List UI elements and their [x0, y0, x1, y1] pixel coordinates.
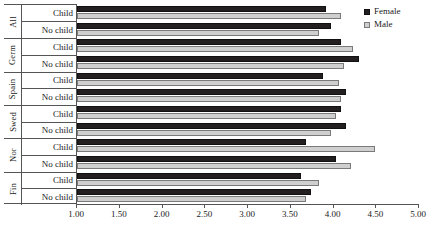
group-subrows: Child No child	[22, 5, 76, 38]
bar-female	[77, 156, 336, 162]
group-subrows: Child No child	[22, 106, 76, 138]
bar-row	[77, 121, 418, 138]
bar-row	[77, 37, 418, 54]
bar-row	[77, 104, 418, 121]
group-label-all: All	[4, 5, 22, 38]
bar-female	[77, 139, 306, 145]
group-row-swed: Swed Child No child	[4, 105, 76, 138]
group-row-spain: Spain Child No child	[4, 72, 76, 105]
group-label-germ: Germ	[4, 39, 22, 71]
legend: Female Male	[364, 6, 401, 32]
bar-male	[77, 30, 319, 36]
legend-item-male: Male	[364, 19, 401, 30]
legend-swatch-female-icon	[364, 9, 370, 15]
x-axis: 1.001.502.002.503.003.504.004.505.00	[76, 204, 418, 205]
group-label-fin: Fin	[4, 173, 22, 205]
bar-female	[77, 123, 346, 129]
group-row-nor: Nor Child No child	[4, 138, 76, 171]
bar-male	[77, 113, 336, 119]
row-label-no-child: No child	[22, 88, 76, 105]
group-label-spain: Spain	[4, 73, 22, 105]
row-label-no-child: No child	[22, 188, 76, 205]
row-label-child: Child	[22, 5, 76, 21]
bar-female	[77, 89, 346, 95]
group-row-all: All Child No child	[4, 5, 76, 38]
group-label-text: Nor	[7, 149, 17, 163]
group-label-text: Fin	[7, 183, 17, 195]
row-label-no-child: No child	[22, 21, 76, 38]
x-axis-tick-label: 5.00	[410, 209, 426, 219]
group-label-text: Germ	[8, 45, 18, 65]
bar-row	[77, 187, 418, 204]
row-label-no-child: No child	[22, 55, 76, 72]
group-label-text: Swed	[8, 112, 18, 132]
group-label-text: All	[8, 16, 18, 27]
x-axis-tick	[76, 204, 77, 208]
bar-male	[77, 13, 341, 19]
x-axis-tick	[204, 204, 205, 208]
x-axis-tick	[162, 204, 163, 208]
bar-group	[77, 71, 418, 104]
group-subrows: Child No child	[22, 73, 76, 105]
bar-chart: All Child No child Germ Child No child S…	[0, 0, 428, 237]
bar-female	[77, 106, 341, 112]
group-subrows: Child No child	[22, 39, 76, 71]
bar-row	[77, 137, 418, 154]
bar-group	[77, 171, 418, 204]
x-axis-tick	[418, 204, 419, 208]
bar-group	[77, 137, 418, 170]
bar-male	[77, 163, 351, 169]
bar-row	[77, 171, 418, 188]
legend-swatch-male-icon	[364, 22, 370, 28]
row-label-child: Child	[22, 73, 76, 89]
bar-female	[77, 39, 341, 45]
bar-female	[77, 73, 323, 79]
x-axis-tick-label: 2.00	[154, 209, 170, 219]
group-label-nor: Nor	[4, 139, 22, 171]
row-label-no-child: No child	[22, 155, 76, 172]
x-axis-tick-label: 2.50	[196, 209, 212, 219]
x-axis-tick-label: 1.50	[111, 209, 127, 219]
row-label-child: Child	[22, 106, 76, 122]
plot-area	[76, 4, 418, 204]
legend-label-male: Male	[374, 19, 393, 30]
bar-male	[77, 46, 353, 52]
x-axis-tick-label: 4.00	[325, 209, 341, 219]
bar-male	[77, 180, 319, 186]
bar-male	[77, 96, 341, 102]
x-axis-tick	[290, 204, 291, 208]
x-axis-tick-label: 3.00	[239, 209, 255, 219]
x-axis-tick	[119, 204, 120, 208]
x-axis-tick	[247, 204, 248, 208]
bar-female	[77, 189, 311, 195]
bar-female	[77, 23, 331, 29]
x-axis-tick-label: 1.00	[68, 209, 84, 219]
group-subrows: Child No child	[22, 173, 76, 205]
bar-male	[77, 196, 306, 202]
bar-female	[77, 6, 326, 12]
group-subrows: Child No child	[22, 139, 76, 171]
category-label-table: All Child No child Germ Child No child S…	[4, 4, 76, 204]
bar-row	[77, 54, 418, 71]
legend-item-female: Female	[364, 6, 401, 17]
row-label-child: Child	[22, 139, 76, 155]
bar-male	[77, 63, 344, 69]
row-label-child: Child	[22, 39, 76, 55]
group-label-text: Spain	[8, 79, 18, 99]
bar-female	[77, 173, 301, 179]
bar-male	[77, 130, 331, 136]
x-axis-tick-label: 3.50	[282, 209, 298, 219]
bar-group	[77, 104, 418, 137]
bar-male	[77, 80, 339, 86]
bar-row	[77, 154, 418, 171]
row-label-no-child: No child	[22, 122, 76, 139]
group-row-fin: Fin Child No child	[4, 172, 76, 205]
legend-label-female: Female	[374, 6, 401, 17]
bar-group	[77, 37, 418, 70]
x-axis-tick	[333, 204, 334, 208]
group-label-swed: Swed	[4, 106, 22, 138]
x-axis-tick	[375, 204, 376, 208]
bar-female	[77, 56, 359, 62]
x-axis-tick-label: 4.50	[367, 209, 383, 219]
bar-row	[77, 71, 418, 88]
